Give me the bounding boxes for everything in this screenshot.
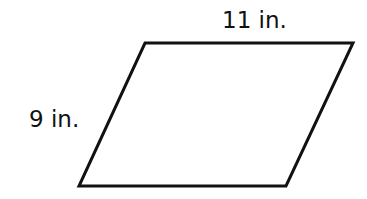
parallelogram-shape (79, 43, 353, 186)
left-side-length-label: 9 in. (29, 106, 79, 132)
top-side-length-label: 11 in. (222, 7, 287, 33)
parallelogram-diagram: 11 in. 9 in. (0, 0, 367, 199)
